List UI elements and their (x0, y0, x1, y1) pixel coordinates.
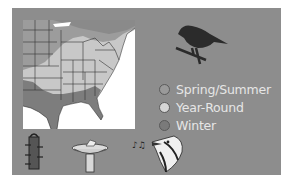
birdbath-icon (70, 136, 110, 174)
legend-item-spring-summer: Spring/Summer (159, 80, 271, 98)
legend-label: Spring/Summer (176, 82, 271, 97)
tube-feeder-icon (22, 131, 46, 171)
legend-item-year-round: Year-Round (159, 98, 271, 116)
us-map-image (23, 20, 135, 129)
season-legend: Spring/Summer Year-Round Winter (159, 80, 271, 134)
singing-bird-icon: ♪♫ (130, 132, 190, 174)
winter-swatch-icon (159, 120, 170, 131)
range-info-panel: Spring/Summer Year-Round Winter ♪♫ (12, 8, 281, 175)
range-map (23, 20, 135, 129)
bird-silhouette-icon (170, 20, 240, 70)
svg-text:♪♫: ♪♫ (132, 140, 146, 150)
legend-label: Year-Round (176, 100, 244, 115)
spring-summer-swatch-icon (159, 84, 170, 95)
legend-label: Winter (176, 118, 216, 133)
year-round-swatch-icon (159, 102, 170, 113)
